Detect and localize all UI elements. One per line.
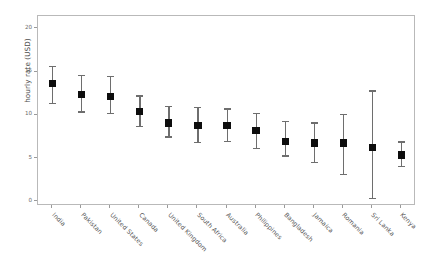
x-tick-mark <box>138 205 139 208</box>
x-tick-mark <box>313 205 314 208</box>
error-bar-cap-upper <box>107 76 114 77</box>
data-point-marker <box>107 93 114 100</box>
x-tick-mark <box>371 205 372 208</box>
x-tick-mark <box>284 205 285 208</box>
error-bar-cap-lower <box>311 162 318 163</box>
error-bar-cap-lower <box>194 142 201 143</box>
chart-figure: hourly rate (USD) 05101520 IndiaPakistan… <box>0 0 423 267</box>
x-tick-mark <box>342 205 343 208</box>
x-tick-mark <box>167 205 168 208</box>
error-bar-cap-upper <box>78 75 85 76</box>
data-point-marker <box>311 139 318 146</box>
y-tick-label: 0 <box>28 197 32 203</box>
error-bar-cap-lower <box>224 141 231 142</box>
error-bar-cap-upper <box>136 95 143 96</box>
error-bar-cap-upper <box>194 107 201 108</box>
y-tick-label: 20 <box>25 24 32 30</box>
error-bar-cap-lower <box>78 111 85 112</box>
data-point-marker <box>398 151 405 158</box>
error-bar-cap-upper <box>224 108 231 109</box>
data-point-marker <box>282 138 289 145</box>
x-tick-label: Jamaica <box>312 211 335 234</box>
x-tick-mark <box>80 205 81 208</box>
error-bar-cap-upper <box>340 114 347 115</box>
x-tick-mark <box>400 205 401 208</box>
error-bar-cap-lower <box>253 148 260 149</box>
x-tick-label: Philippines <box>254 211 284 241</box>
x-tick-label: Bangladesh <box>283 211 315 243</box>
error-bar-cap-upper <box>282 121 289 122</box>
error-bar-cap-lower <box>107 113 114 114</box>
x-tick-label: Kenya <box>400 211 419 230</box>
error-bar-cap-lower <box>369 198 376 199</box>
x-tick-label: India <box>51 211 67 227</box>
error-bar-cap-lower <box>165 136 172 137</box>
y-tick-label: 10 <box>25 110 32 116</box>
data-point-marker <box>340 139 347 146</box>
error-bar-cap-lower <box>136 126 143 127</box>
error-bar-cap-upper <box>253 113 260 114</box>
data-point-marker <box>369 144 376 151</box>
x-tick-mark <box>109 205 110 208</box>
data-point-marker <box>252 127 259 134</box>
data-point-marker <box>194 122 201 129</box>
error-bar-cap-upper <box>398 141 405 142</box>
y-tick-label: 5 <box>28 154 32 160</box>
data-point-marker <box>223 122 230 129</box>
error-bar-cap-upper <box>49 66 56 67</box>
error-bar-cap-upper <box>311 122 318 123</box>
y-tick-label: 15 <box>25 67 32 73</box>
x-tick-label: Romania <box>341 211 366 236</box>
x-tick-mark <box>226 205 227 208</box>
plot-panel <box>37 15 415 205</box>
error-bar-cap-upper <box>369 90 376 91</box>
error-bar-cap-lower <box>282 155 289 156</box>
data-point-marker <box>49 80 56 87</box>
x-tick-label: Canada <box>138 211 160 233</box>
data-point-marker <box>136 108 143 115</box>
x-tick-label: Australia <box>225 211 250 236</box>
x-tick-label: Sri Lanka <box>370 211 396 237</box>
error-bar-cap-lower <box>398 166 405 167</box>
error-bar-cap-upper <box>165 106 172 107</box>
data-point-marker <box>78 91 85 98</box>
x-tick-mark <box>51 205 52 208</box>
error-bar-cap-lower <box>49 103 56 104</box>
error-bar-cap-lower <box>340 174 347 175</box>
x-tick-mark <box>196 205 197 208</box>
data-point-marker <box>165 119 172 126</box>
x-tick-mark <box>255 205 256 208</box>
x-tick-label: Pakistan <box>80 211 104 235</box>
